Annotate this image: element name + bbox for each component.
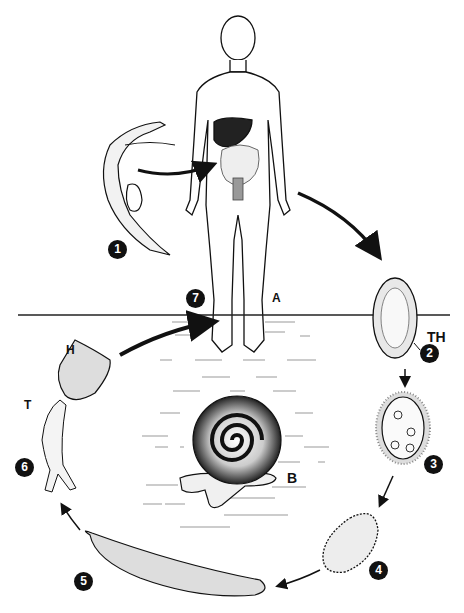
cercaria	[42, 340, 110, 492]
stage-badge-1: 1	[108, 240, 127, 259]
snail	[180, 396, 281, 508]
label-snail-host: B	[287, 470, 297, 486]
sporocyst	[323, 514, 378, 573]
label-head: H	[66, 343, 75, 357]
life-cycle-diagram: 1 2 3 4 5 6 7 A B TH H T	[0, 0, 464, 613]
label-human-host: A	[272, 291, 281, 305]
stage-badge-6: 6	[15, 458, 34, 477]
stage-badge-4: 4	[369, 561, 388, 580]
stage-badge-5: 5	[74, 572, 93, 591]
arrow-daughter-to-cercaria	[62, 505, 80, 530]
egg	[373, 278, 420, 358]
stage-badge-3: 3	[424, 455, 443, 474]
label-thorn: TH	[427, 329, 446, 345]
stage-badge-7: 7	[186, 289, 205, 308]
stage-badge-2: 2	[420, 344, 439, 363]
arrow-body-to-egg	[298, 193, 378, 255]
label-tail: T	[24, 398, 31, 412]
adult-worm-pair	[103, 122, 175, 255]
arrow-cercaria-to-skin	[120, 322, 212, 355]
miracidium	[376, 392, 430, 464]
arrow-miracidium-to-sporocyst	[380, 476, 393, 505]
daughter-sporocyst	[85, 531, 265, 596]
diagram-canvas	[0, 0, 464, 613]
arrow-sporocyst-to-daughter	[278, 570, 320, 586]
